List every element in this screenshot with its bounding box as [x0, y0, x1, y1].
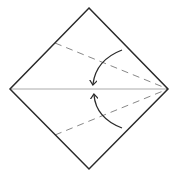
- upper-valley-fold-line: [55, 43, 168, 89]
- diagram-canvas: [0, 0, 179, 173]
- upper-fold-arrow-icon: [93, 50, 122, 84]
- lower-valley-fold-line: [55, 89, 168, 135]
- origami-diagram: Origami kite fold step: [0, 0, 179, 173]
- lower-fold-arrow-icon: [94, 95, 122, 128]
